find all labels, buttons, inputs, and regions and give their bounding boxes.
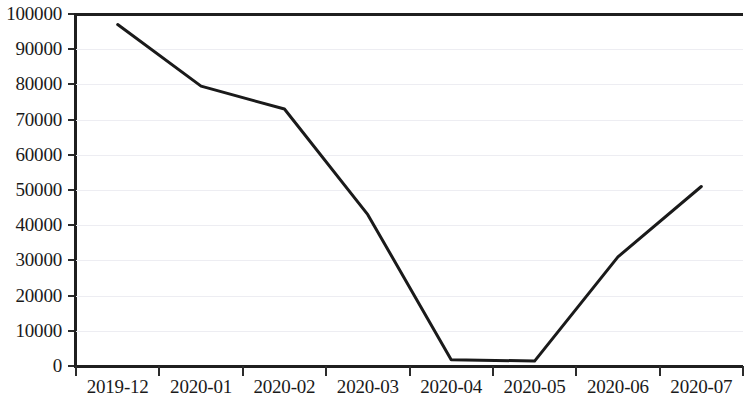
x-axis-tick-mark: [325, 366, 327, 376]
y-axis-tick-label: 60000: [15, 145, 62, 164]
x-axis-labels: 2019-12 2020-01 2020-02 2020-03 2020-04 …: [0, 376, 743, 399]
x-axis-tick-label: 2020-03: [337, 376, 399, 398]
y-axis-tick-label: 10000: [15, 321, 62, 340]
x-axis-tick-label: 2020-04: [420, 376, 482, 398]
series-polyline: [118, 25, 702, 362]
y-axis-tick-label: 40000: [15, 215, 62, 234]
x-axis-tick-mark: [492, 366, 494, 376]
y-axis-tick-label: 20000: [15, 286, 62, 305]
x-axis-tick-mark: [575, 366, 577, 376]
y-axis-tick-label: 90000: [15, 39, 62, 58]
x-axis-tick-mark: [409, 366, 411, 376]
y-axis-tick-label: 80000: [15, 74, 62, 93]
y-axis-labels: 100000 90000 80000 70000 60000 50000 400…: [0, 0, 70, 399]
y-axis-tick-label: 50000: [15, 180, 62, 199]
x-axis-tick-mark: [659, 366, 661, 376]
x-axis-tick-label: 2020-07: [670, 376, 732, 398]
x-axis-tick-label: 2019-12: [87, 376, 149, 398]
x-axis-tick-mark: [242, 366, 244, 376]
y-axis-tick-label: 100000: [6, 4, 62, 23]
x-axis-tick-label: 2020-05: [504, 376, 566, 398]
data-series-line: [76, 14, 743, 366]
x-axis-tick-label: 2020-02: [253, 376, 315, 398]
x-axis-tick-mark: [158, 366, 160, 376]
x-axis-tick-label: 2020-01: [170, 376, 232, 398]
x-axis-tick-label: 2020-06: [587, 376, 649, 398]
x-axis-tick-mark: [75, 366, 77, 376]
plot-area: [76, 14, 743, 366]
y-axis-tick-label: 70000: [15, 110, 62, 129]
y-axis-tick-label: 30000: [15, 250, 62, 269]
